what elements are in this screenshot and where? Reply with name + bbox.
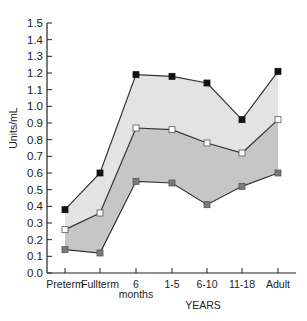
- y-tick-label: 0.0: [27, 267, 43, 279]
- x-tick-label: 11-18: [229, 278, 255, 290]
- data-point-upper: [97, 170, 103, 176]
- y-tick-label: 0.2: [27, 234, 43, 246]
- chart-bands: [65, 71, 278, 253]
- y-axis-title: Units/mL: [7, 107, 19, 149]
- chart-canvas: 0.00.10.20.30.40.50.60.70.80.91.01.11.21…: [0, 0, 307, 321]
- x-tick-label: Adult: [266, 278, 290, 290]
- x-tick-label: Preterm: [46, 278, 84, 290]
- y-tick-label: 0.4: [27, 200, 44, 212]
- x-axis: PretermFullterm6months1-56-1011-18Adult: [46, 268, 296, 300]
- data-point-lower: [204, 202, 210, 208]
- data-point-lower: [97, 250, 103, 256]
- y-tick-label: 1.5: [27, 17, 43, 29]
- data-point-mean: [62, 227, 68, 233]
- data-point-mean: [133, 125, 139, 131]
- data-point-upper: [275, 68, 281, 74]
- data-point-upper: [133, 72, 139, 78]
- data-point-mean: [275, 117, 281, 123]
- data-point-mean: [169, 127, 175, 133]
- y-tick-label: 0.7: [27, 150, 43, 162]
- data-point-lower: [239, 183, 245, 189]
- x-axis-title: YEARS: [185, 299, 221, 311]
- y-tick-label: 1.2: [27, 67, 43, 79]
- data-point-lower: [275, 170, 281, 176]
- x-tick-label: 1-5: [164, 278, 179, 290]
- y-tick-label: 0.9: [27, 117, 43, 129]
- y-tick-label: 1.4: [27, 34, 44, 46]
- y-tick-label: 1.1: [27, 84, 43, 96]
- data-point-upper: [204, 80, 210, 86]
- y-tick-label: 0.6: [27, 167, 43, 179]
- data-point-upper: [169, 73, 175, 79]
- data-point-lower: [133, 178, 139, 184]
- x-tick-label: 6-10: [196, 278, 217, 290]
- data-point-lower: [62, 247, 68, 253]
- y-tick-label: 0.5: [27, 184, 43, 196]
- x-tick-label: Fullterm: [81, 278, 119, 290]
- y-tick-label: 0.3: [27, 217, 43, 229]
- y-tick-label: 0.1: [27, 250, 43, 262]
- data-point-mean: [204, 140, 210, 146]
- chart: 0.00.10.20.30.40.50.60.70.80.91.01.11.21…: [0, 0, 307, 321]
- data-point-upper: [62, 207, 68, 213]
- data-point-lower: [169, 180, 175, 186]
- y-tick-label: 0.8: [27, 134, 43, 146]
- data-point-upper: [239, 117, 245, 123]
- y-tick-label: 1.3: [27, 50, 43, 62]
- data-point-mean: [97, 210, 103, 216]
- data-point-mean: [239, 150, 245, 156]
- y-tick-label: 1.0: [27, 100, 43, 112]
- x-tick-label: months: [119, 288, 153, 300]
- y-axis: 0.00.10.20.30.40.50.60.70.80.91.01.11.21…: [27, 17, 52, 279]
